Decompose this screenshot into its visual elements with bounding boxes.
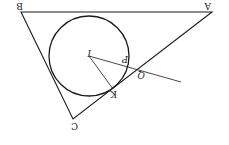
label-a: A	[204, 1, 212, 11]
label-i: I	[87, 48, 92, 58]
segment-ik	[89, 56, 113, 89]
geometry-diagram: A B C I K P Q	[0, 0, 229, 145]
label-k: K	[110, 89, 117, 99]
label-q: Q	[137, 70, 145, 80]
label-p: P	[121, 54, 129, 64]
label-c: C	[71, 121, 78, 131]
line-ipq	[89, 56, 181, 82]
label-b: B	[16, 1, 23, 11]
